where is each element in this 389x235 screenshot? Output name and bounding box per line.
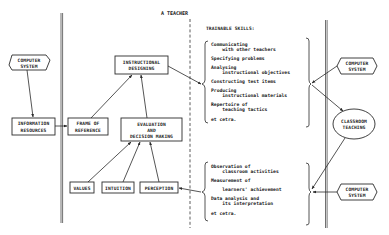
svg-text:teaching tactics: teaching tactics [211, 107, 268, 112]
svg-text:PERCEPTION: PERCEPTION [145, 186, 174, 191]
svg-text:et cetra.: et cetra. [211, 211, 236, 216]
svg-text:et cetra.: et cetra. [211, 117, 236, 122]
svg-text:with other teachers: with other teachers [211, 47, 276, 52]
svg-text:DECISION MAKING: DECISION MAKING [130, 134, 173, 139]
evaluation-skills-right-brace [306, 163, 311, 225]
computer-system-top-right: COMPUTER SYSTEM [337, 58, 377, 74]
svg-text:VALUES: VALUES [73, 186, 90, 191]
design-skills-right-brace [306, 38, 311, 127]
classroom-teaching-ellipse: CLASSROOM TEACHING [333, 109, 375, 139]
svg-text:INFORMATION: INFORMATION [18, 121, 50, 126]
svg-text:AND: AND [147, 128, 156, 133]
left-boundary-line [61, 13, 63, 223]
svg-text:Constructing test items: Constructing test items [211, 79, 276, 84]
svg-text:FRAME OF: FRAME OF [77, 121, 100, 126]
evaluation-skills-list: Observation of classroom activities Meas… [211, 164, 282, 216]
svg-text:SYSTEM: SYSTEM [348, 193, 365, 198]
instructional-designing-box: INSTRUCTIONAL DESIGNING [115, 56, 168, 74]
evaluation-skills-brace [202, 162, 208, 221]
computer-system-left: COMPUTER SYSTEM [9, 55, 50, 70]
svg-text:RESOURCES: RESOURCES [21, 128, 47, 133]
design-skills-brace [202, 41, 208, 123]
svg-text:COMPUTER: COMPUTER [18, 58, 41, 63]
svg-text:Measurement of: Measurement of [211, 178, 251, 183]
svg-text:learners' achievement: learners' achievement [211, 187, 282, 192]
svg-text:COMPUTER: COMPUTER [346, 61, 369, 66]
perception-box: PERCEPTION [140, 182, 178, 193]
values-box: VALUES [70, 182, 94, 193]
computer-system-bottom-right: COMPUTER SYSTEM [337, 184, 377, 200]
trainable-skills-heading: TRAINABLE SKILLS: [206, 26, 255, 31]
svg-text:INTUITION: INTUITION [105, 186, 131, 191]
svg-text:Specifying problems: Specifying problems [211, 56, 265, 61]
svg-text:TEACHING: TEACHING [343, 125, 366, 130]
right-boundary-line [326, 20, 328, 228]
svg-text:COMPUTER: COMPUTER [346, 187, 369, 192]
svg-text:SYSTEM: SYSTEM [20, 64, 37, 69]
svg-text:EVALUATION: EVALUATION [137, 122, 166, 127]
information-resources-box: INFORMATION RESOURCES [12, 118, 55, 135]
svg-text:DESIGNING: DESIGNING [129, 66, 155, 71]
teacher-skills-diagram: A TEACHER TRAINABLE SKILLS: COMPUTER SYS… [0, 0, 389, 235]
svg-text:CLASSROOM: CLASSROOM [341, 119, 367, 124]
svg-text:SYSTEM: SYSTEM [348, 67, 365, 72]
evaluation-decision-making-box: EVALUATION AND DECISION MAKING [121, 118, 182, 141]
svg-text:classroom activities: classroom activities [211, 169, 279, 174]
svg-text:REFERENCE: REFERENCE [75, 128, 101, 133]
design-skills-list: Communicating with other teachers Specif… [211, 42, 290, 122]
teacher-title: A TEACHER [161, 10, 189, 16]
intuition-box: INTUITION [102, 182, 134, 193]
svg-text:instructional materials: instructional materials [211, 93, 287, 98]
svg-text:INSTRUCTIONAL: INSTRUCTIONAL [123, 60, 160, 65]
svg-text:its interpretation: its interpretation [211, 201, 273, 206]
svg-text:instructional objectives: instructional objectives [211, 70, 290, 75]
frame-of-reference-box: FRAME OF REFERENCE [68, 118, 108, 135]
